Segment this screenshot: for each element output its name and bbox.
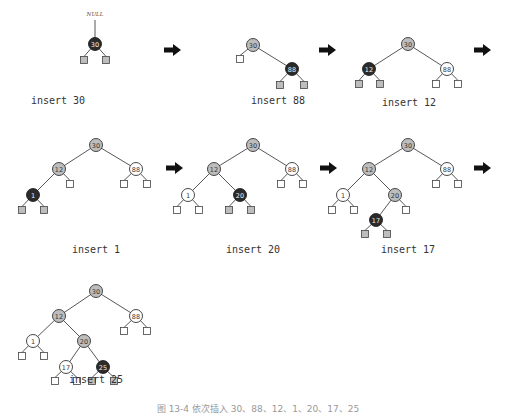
tree-node-30: 30 bbox=[247, 139, 260, 152]
nil-leaf bbox=[67, 181, 74, 188]
tree-node-12: 12 bbox=[208, 163, 221, 176]
nil-leaf bbox=[301, 82, 308, 89]
nil-leaf bbox=[248, 207, 255, 214]
tree-node-30: 30 bbox=[89, 38, 102, 51]
tree-node-30: 30 bbox=[402, 139, 415, 152]
nil-leaf bbox=[455, 181, 462, 188]
tree-node-88: 88 bbox=[286, 163, 299, 176]
nil-leaf bbox=[41, 207, 48, 214]
nil-leaf bbox=[384, 231, 391, 238]
rb-tree-diagram: NULL30insert 303088insert 88301288insert… bbox=[0, 0, 517, 416]
nil-leaf bbox=[300, 181, 307, 188]
arrow-right-icon bbox=[474, 44, 491, 56]
node-key: 1 bbox=[341, 192, 345, 200]
node-key: 30 bbox=[249, 42, 257, 50]
step-caption: insert 88 bbox=[251, 95, 305, 106]
node-key: 88 bbox=[288, 166, 296, 174]
tree-node-88: 88 bbox=[441, 163, 454, 176]
node-key: 12 bbox=[55, 166, 63, 174]
nil-leaf bbox=[377, 81, 384, 88]
nil-leaf bbox=[174, 207, 181, 214]
diagram-canvas: NULL30insert 303088insert 88301288insert… bbox=[0, 0, 517, 416]
node-key: 1 bbox=[186, 192, 190, 200]
nil-leaf bbox=[41, 353, 48, 360]
null-parent-label: NULL bbox=[86, 11, 104, 17]
step-caption: insert 12 bbox=[382, 97, 436, 108]
tree-node-25: 25 bbox=[97, 361, 110, 374]
arrow-right-icon bbox=[474, 162, 491, 174]
insert-step: 301288insert 12 bbox=[356, 38, 462, 109]
step-caption: insert 1 bbox=[72, 244, 120, 255]
node-key: 1 bbox=[31, 192, 35, 200]
nil-leaf bbox=[144, 328, 151, 335]
node-key: 88 bbox=[443, 66, 451, 74]
nil-leaf bbox=[19, 353, 26, 360]
tree-node-1: 1 bbox=[182, 189, 195, 202]
nil-leaf bbox=[237, 56, 244, 63]
tree-node-1: 1 bbox=[27, 189, 40, 202]
tree-node-12: 12 bbox=[53, 163, 66, 176]
tree-node-20: 20 bbox=[234, 189, 247, 202]
node-key: 17 bbox=[372, 217, 380, 225]
tree-node-12: 12 bbox=[363, 63, 376, 76]
tree-node-30: 30 bbox=[247, 39, 260, 52]
tree-node-17: 17 bbox=[60, 361, 73, 374]
tree-node-30: 30 bbox=[402, 38, 415, 51]
nil-leaf bbox=[144, 181, 151, 188]
steps-layer: NULL30insert 303088insert 88301288insert… bbox=[19, 11, 462, 385]
tree-node-20: 20 bbox=[78, 335, 91, 348]
nil-leaf bbox=[351, 207, 358, 214]
node-key: 12 bbox=[365, 166, 373, 174]
nil-leaf bbox=[362, 231, 369, 238]
node-key: 12 bbox=[55, 313, 63, 321]
node-key: 30 bbox=[92, 142, 100, 150]
node-key: 30 bbox=[404, 142, 412, 150]
nil-leaf bbox=[433, 181, 440, 188]
tree-node-88: 88 bbox=[130, 310, 143, 323]
tree-node-1: 1 bbox=[337, 189, 350, 202]
step-caption: insert 30 bbox=[31, 95, 85, 106]
nil-leaf bbox=[196, 207, 203, 214]
tree-node-88: 88 bbox=[441, 63, 454, 76]
insert-step: 3012881201725insert 25 bbox=[19, 285, 151, 386]
insert-step: 3088insert 88 bbox=[237, 39, 308, 107]
step-caption: insert 17 bbox=[381, 244, 435, 255]
step-caption: insert 20 bbox=[226, 244, 280, 255]
tree-edge bbox=[96, 291, 136, 316]
node-key: 88 bbox=[132, 313, 140, 321]
nil-leaf bbox=[403, 207, 410, 214]
nil-leaf bbox=[278, 181, 285, 188]
nil-leaf bbox=[81, 57, 88, 64]
figure-caption: 图 13-4 依次插入 30、88、12、1、20、17、25 bbox=[157, 403, 359, 414]
tree-node-12: 12 bbox=[53, 310, 66, 323]
node-key: 88 bbox=[132, 166, 140, 174]
insert-step: 3012881insert 1 bbox=[19, 139, 151, 256]
node-key: 1 bbox=[31, 338, 35, 346]
tree-node-17: 17 bbox=[370, 214, 383, 227]
node-key: 30 bbox=[404, 41, 412, 49]
node-key: 20 bbox=[80, 338, 88, 346]
arrows-layer bbox=[164, 44, 491, 174]
nil-leaf bbox=[19, 207, 26, 214]
insert-step: 30128812017insert 17 bbox=[329, 139, 462, 256]
node-key: 30 bbox=[91, 41, 99, 49]
tree-node-88: 88 bbox=[286, 63, 299, 76]
tree-node-88: 88 bbox=[130, 163, 143, 176]
node-key: 30 bbox=[92, 288, 100, 296]
node-key: 88 bbox=[443, 166, 451, 174]
node-key: 30 bbox=[249, 142, 257, 150]
node-key: 20 bbox=[391, 192, 399, 200]
tree-node-20: 20 bbox=[389, 189, 402, 202]
tree-node-1: 1 bbox=[27, 335, 40, 348]
nil-leaf bbox=[356, 81, 363, 88]
nil-leaf bbox=[277, 82, 284, 89]
node-key: 20 bbox=[236, 192, 244, 200]
arrow-right-icon bbox=[319, 44, 336, 56]
nil-leaf bbox=[121, 181, 128, 188]
nil-leaf bbox=[455, 81, 462, 88]
nil-leaf bbox=[329, 207, 336, 214]
tree-node-12: 12 bbox=[363, 163, 376, 176]
arrow-right-icon bbox=[166, 162, 183, 174]
arrow-right-icon bbox=[320, 162, 337, 174]
nil-leaf bbox=[121, 328, 128, 335]
